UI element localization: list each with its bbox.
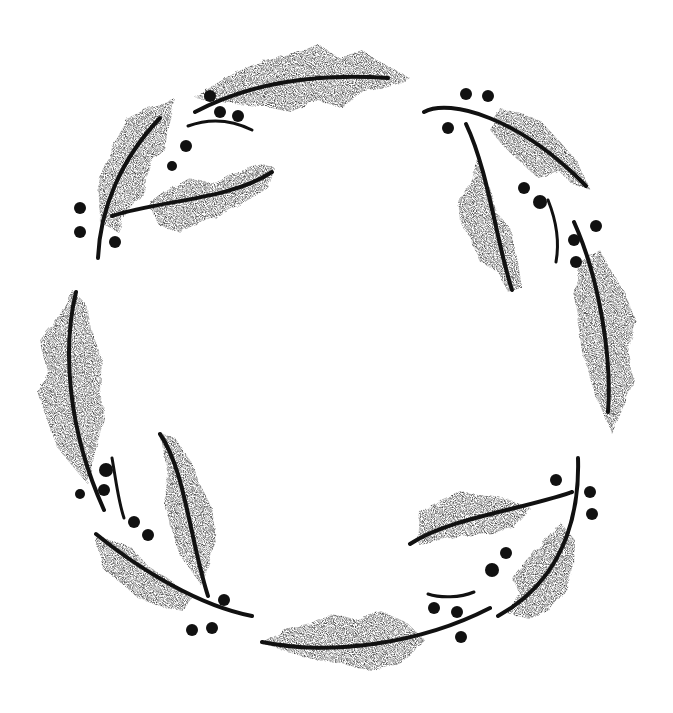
berry bbox=[518, 182, 530, 194]
berry bbox=[500, 547, 512, 559]
berry bbox=[204, 90, 216, 102]
holly-wreath-illustration bbox=[0, 0, 673, 713]
berry bbox=[428, 602, 440, 614]
berry bbox=[460, 88, 472, 100]
berry bbox=[485, 563, 499, 577]
berry bbox=[180, 140, 192, 152]
berry bbox=[455, 631, 467, 643]
berry bbox=[442, 122, 454, 134]
berry bbox=[570, 256, 582, 268]
berry bbox=[550, 474, 562, 486]
berry bbox=[482, 90, 494, 102]
berry bbox=[167, 161, 177, 171]
berry bbox=[533, 195, 547, 209]
berry bbox=[98, 484, 110, 496]
berry bbox=[142, 529, 154, 541]
berry bbox=[109, 236, 121, 248]
berry bbox=[586, 508, 598, 520]
berry bbox=[186, 624, 198, 636]
berry bbox=[218, 594, 230, 606]
berry bbox=[590, 220, 602, 232]
berry bbox=[74, 226, 86, 238]
berry bbox=[206, 622, 218, 634]
berry bbox=[584, 486, 596, 498]
berry bbox=[75, 489, 85, 499]
berry bbox=[74, 202, 86, 214]
background bbox=[0, 0, 673, 713]
berry bbox=[568, 234, 580, 246]
berry bbox=[232, 110, 244, 122]
berry bbox=[451, 606, 463, 618]
berry bbox=[214, 106, 226, 118]
berry bbox=[99, 463, 113, 477]
berry bbox=[128, 516, 140, 528]
